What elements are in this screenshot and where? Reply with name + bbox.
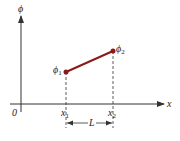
x1-label: x1: [60, 107, 69, 120]
element-segment: [66, 51, 113, 72]
element-diagram: ϕ x 0 ϕ1 ϕ2 x1 x2 L: [0, 0, 180, 141]
origin-label: 0: [12, 107, 17, 118]
x2-label: x2: [107, 107, 116, 120]
node-phi2: [111, 49, 116, 54]
phi2-label: ϕ2: [116, 43, 125, 56]
phi1-label: ϕ1: [53, 64, 62, 77]
length-label: L: [88, 117, 95, 128]
y-axis-label: ϕ: [18, 3, 23, 14]
node-phi1: [64, 70, 69, 75]
x-axis-label: x: [166, 98, 172, 109]
